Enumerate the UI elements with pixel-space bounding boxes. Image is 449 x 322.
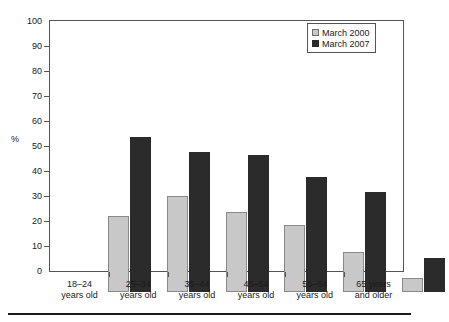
x-category-label: 45–54years old [225,279,287,301]
x-tick-mark [168,272,169,277]
y-tick-label: 100 [18,17,42,26]
x-tick-mark [109,272,110,277]
y-tick-label: 70 [18,92,42,101]
x-category-label-line1: 25–34 [126,279,151,289]
bar-1-2 [248,155,269,293]
bar-1-1 [189,152,210,292]
legend-swatch-march-2000 [312,29,319,36]
legend-label-march-2000: March 2000 [322,28,370,38]
y-tick-label: 90 [18,42,42,51]
x-tick-mark [227,272,228,277]
bottom-divider [8,313,411,315]
bar-1-5 [424,258,445,292]
legend-item-march-2007: March 2007 [312,38,370,49]
bars-layer [100,42,449,292]
legend-label-march-2007: March 2007 [322,39,370,49]
y-tick-label: 50 [18,142,42,151]
x-category-label-line2: years old [166,290,228,301]
x-tick-mark [344,272,345,277]
x-category-label: 55–64years old [284,279,346,301]
chart-legend: March 2000 March 2007 [307,23,376,53]
x-category-label-line2: years old [284,290,346,301]
y-tick-label: 20 [18,217,42,226]
x-category-label: 65 yearsand older [343,279,405,301]
y-tick-label: 0 [18,267,42,276]
x-category-label-line2: years old [48,290,110,301]
plot-area [49,20,404,272]
x-category-label-line2: years old [107,290,169,301]
y-tick-label: 40 [18,167,42,176]
y-tick-label: 80 [18,67,42,76]
y-tick-label: 10 [18,242,42,251]
x-tick-mark [285,272,286,277]
x-category-label-line1: 65 years [356,279,391,289]
x-category-label: 18–24years old [48,279,110,301]
x-category-label-line1: 55–64 [302,279,327,289]
x-category-label-line1: 45–54 [243,279,268,289]
x-category-label-line1: 18–24 [67,279,92,289]
x-category-label-line2: years old [225,290,287,301]
bar-0-1 [167,196,188,292]
x-category-label: 35–44years old [166,279,228,301]
y-tick-label: 30 [18,192,42,201]
bar-1-3 [306,177,327,292]
legend-swatch-march-2007 [312,40,319,47]
bar-0-5 [402,278,423,292]
x-category-label: 25–34years old [107,279,169,301]
legend-item-march-2000: March 2000 [312,27,370,38]
y-tick-label: 60 [18,117,42,126]
x-category-label-line2: and older [343,290,405,301]
x-category-label-line1: 35–44 [185,279,210,289]
bar-1-4 [365,192,386,292]
bar-1-0 [130,137,151,292]
